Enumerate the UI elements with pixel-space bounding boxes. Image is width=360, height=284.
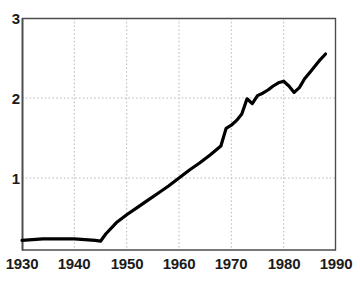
data-series-line <box>22 54 326 241</box>
x-axis-tick-label-1940: 1940 <box>51 255 97 272</box>
x-axis-tick-label-1960: 1960 <box>156 255 202 272</box>
x-axis-tick-label-1930: 1930 <box>0 255 45 272</box>
plot-area <box>0 0 360 284</box>
y-axis-tick-label-3: 3 <box>4 10 20 27</box>
y-axis-tick-label-2: 2 <box>4 90 20 107</box>
x-axis-tick-label-1950: 1950 <box>104 255 150 272</box>
x-axis-tick-label-1970: 1970 <box>208 255 254 272</box>
chart-figure: 3 2 1 1930 1940 1950 1960 1970 1980 1990 <box>0 0 360 284</box>
x-axis-tick-label-1980: 1980 <box>261 255 307 272</box>
x-axis-tick-label-1990: 1990 <box>313 255 359 272</box>
y-axis-tick-label-1: 1 <box>4 170 20 187</box>
grid-lines <box>22 18 336 250</box>
